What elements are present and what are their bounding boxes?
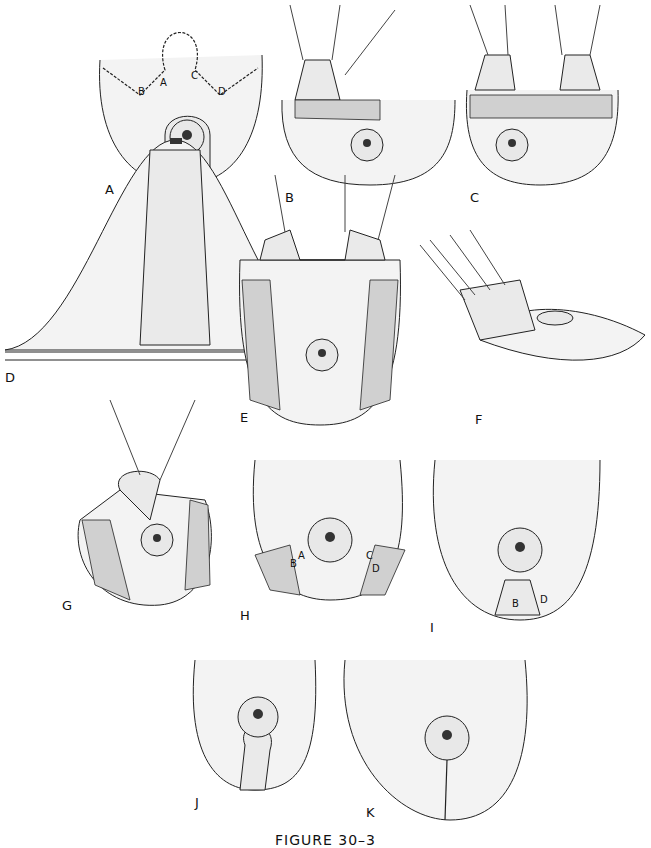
panel-label-k: K bbox=[366, 805, 375, 820]
figure-caption: FIGURE 30–3 bbox=[275, 832, 376, 848]
